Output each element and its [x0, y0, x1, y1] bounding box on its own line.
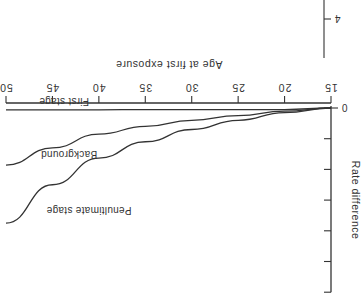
x-tick-label: 30: [185, 82, 199, 94]
series-label: First stage: [39, 96, 89, 107]
y-tick-label: 0: [342, 102, 348, 113]
series-label: Background: [41, 149, 97, 160]
y-axis-label: Rate difference: [350, 161, 362, 240]
x-tick-label: 45: [46, 82, 60, 94]
x-tick-label: 35: [138, 82, 152, 94]
series-first-stage-line: [6, 108, 331, 110]
x-tick-label: 40: [92, 82, 106, 94]
stray-tick-label: 4: [335, 13, 341, 24]
rate-difference-chart: 0Rate difference1520253035404550Age at f…: [0, 0, 364, 303]
x-tick-label: 50: [0, 82, 13, 94]
x-tick-label: 20: [278, 82, 292, 94]
plot-rotated-group: 0Rate difference1520253035404550Age at f…: [0, 0, 362, 292]
x-tick-label: 25: [231, 82, 245, 94]
x-axis-label: Age at first exposure: [116, 59, 223, 71]
series-label: Penultimate stage: [46, 205, 131, 216]
x-tick-label: 15: [324, 82, 338, 94]
